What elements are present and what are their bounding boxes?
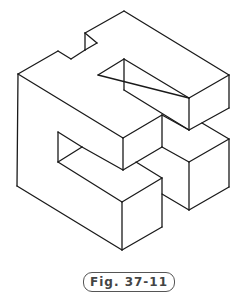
edge-line: [122, 227, 162, 250]
edge-line: [98, 75, 189, 98]
edge-line: [202, 123, 229, 139]
figure-caption: Fig. 37-11: [83, 272, 175, 292]
edge-line: [17, 186, 122, 250]
edge-line: [162, 147, 189, 162]
edge-line: [18, 51, 58, 74]
edge-line: [98, 59, 124, 75]
edge-line: [124, 59, 189, 98]
edge-line: [123, 115, 162, 138]
isometric-block-diagram: [0, 0, 242, 260]
edge-line: [122, 178, 162, 202]
edge-line: [58, 51, 71, 59]
edge-line: [85, 43, 97, 50]
edge-line: [189, 75, 229, 98]
edge-line: [85, 33, 97, 43]
edge-line: [189, 187, 229, 210]
edge-line: [162, 115, 189, 130]
edge-line: [136, 162, 162, 178]
edge-line: [124, 11, 229, 75]
edge-line: [58, 162, 122, 202]
edge-line: [71, 50, 85, 59]
edge-line: [162, 194, 189, 210]
edge-line: [82, 147, 123, 170]
edge-line: [58, 147, 82, 162]
edge-line: [18, 74, 123, 138]
edge-line: [85, 11, 124, 33]
edge-line: [17, 74, 18, 186]
edge-line: [58, 132, 82, 147]
edge-line: [189, 139, 229, 162]
